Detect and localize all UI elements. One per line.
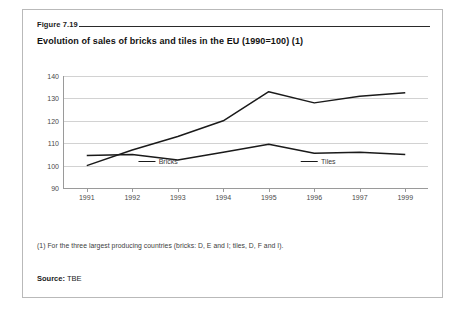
x-axis-tick-label: 1999 [397, 194, 413, 201]
legend-line-icon [301, 161, 318, 162]
figure-header-rule [79, 26, 430, 27]
figure-card: Figure 7.19 Evolution of sales of bricks… [22, 9, 443, 298]
legend-label: Bricks [159, 158, 178, 165]
y-axis-tick-label: 90 [51, 185, 59, 192]
legend-item-bricks[interactable]: Bricks [139, 158, 178, 165]
x-axis-tick-label: 1993 [170, 194, 186, 201]
chart-plot-area: 90100110120130140 1991199219931994199519… [63, 76, 428, 189]
x-axis-tick-label: 1992 [124, 194, 140, 201]
y-axis-tick-label: 130 [47, 95, 59, 102]
x-axis-tick-mark [314, 188, 315, 192]
x-axis-tick-label: 1991 [79, 194, 95, 201]
x-axis-tick-mark [269, 188, 270, 192]
figure-source: Source: TBE [37, 274, 81, 283]
y-axis-tick-label: 110 [48, 140, 59, 147]
x-axis-tick-mark [223, 188, 224, 192]
figure-label: Figure 7.19 [37, 20, 78, 29]
x-axis-tick-mark [87, 188, 88, 192]
legend-label: Tiles [321, 158, 336, 165]
chart-plot-wrapper: 90100110120130140 1991199219931994199519… [37, 67, 433, 222]
legend-item-tiles[interactable]: Tiles [301, 158, 336, 165]
figure-title: Evolution of sales of bricks and tiles i… [37, 36, 430, 46]
x-axis-tick-label: 1995 [261, 194, 277, 201]
x-axis-tick-mark [178, 188, 179, 192]
x-axis-tick-mark [360, 188, 361, 192]
y-axis-tick-label: 120 [47, 117, 59, 124]
x-axis-tick-label: 1994 [215, 194, 231, 201]
source-label: Source: [37, 274, 65, 283]
legend-line-icon [139, 161, 156, 162]
x-axis-tick-mark [132, 188, 133, 192]
x-axis-tick-mark [405, 188, 406, 192]
figure-label-row: Figure 7.19 [37, 18, 430, 30]
chart-legend: BricksTiles [49, 158, 413, 172]
x-axis-tick-label: 1996 [306, 194, 322, 201]
source-value: TBE [67, 274, 82, 283]
y-axis-tick-label: 140 [47, 73, 59, 80]
x-axis-tick-label: 1997 [352, 194, 368, 201]
figure-footnote: (1) For the three largest producing coun… [37, 242, 430, 249]
